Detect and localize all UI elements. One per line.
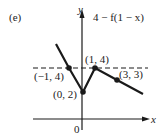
x-axis-label: x: [150, 113, 156, 125]
graph-figure: (e) y x 0 4 − f(1 − x) (−1, 4) (0, 2) (1…: [0, 0, 159, 140]
panel-label: (e): [9, 11, 22, 24]
point-neg1-4: [66, 65, 72, 71]
point-label: (0, 2): [53, 88, 77, 101]
function-label: 4 − f(1 − x): [93, 11, 144, 24]
point-0-2: [80, 89, 86, 95]
point-label: (3, 3): [119, 68, 143, 81]
point-1-4: [92, 65, 98, 71]
x-axis-arrow-icon: [142, 117, 150, 122]
point-label: (−1, 4): [34, 70, 64, 83]
point-label: (1, 4): [85, 53, 109, 66]
y-axis-label: y: [77, 3, 83, 15]
origin-label: 0: [74, 123, 80, 135]
